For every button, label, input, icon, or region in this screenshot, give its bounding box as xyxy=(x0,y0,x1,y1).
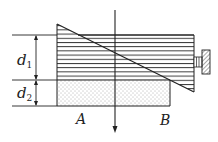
adjusting-screw xyxy=(194,50,210,74)
arrow-down-icon xyxy=(113,126,118,133)
label-point-a: A xyxy=(74,111,86,127)
lower-dotted-block xyxy=(57,80,170,106)
wedge-diagram: d1 d2 A B xyxy=(0,0,218,142)
label-point-b: B xyxy=(159,112,170,128)
label-d2: d2 xyxy=(17,84,32,103)
dimension-d2 xyxy=(34,80,38,106)
label-d1: d1 xyxy=(17,51,32,70)
dimension-d1 xyxy=(34,35,38,80)
